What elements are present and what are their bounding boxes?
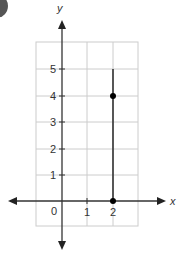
axis-ticks — [59, 69, 87, 204]
y-axis-down-arrow-icon — [58, 241, 66, 250]
y-tick-label-1: 1 — [50, 169, 56, 181]
point-2-4 — [110, 93, 116, 99]
y-axis-up-arrow-icon — [58, 20, 66, 29]
x-axis-left-arrow-icon — [8, 197, 17, 205]
y-axis-label: y — [56, 2, 64, 14]
y-tick-label-3: 3 — [50, 116, 56, 128]
question-badge-icon — [0, 0, 8, 18]
x-axis-label: x — [169, 195, 176, 207]
y-tick-label-5: 5 — [50, 63, 56, 75]
point-2-0 — [110, 198, 116, 204]
x-tick-label-2: 2 — [110, 206, 116, 218]
y-tick-label-4: 4 — [50, 90, 56, 102]
x-axis-right-arrow-icon — [157, 197, 166, 205]
x-tick-label-1: 1 — [84, 206, 90, 218]
y-tick-label-2: 2 — [50, 143, 56, 155]
coordinate-plane-chart: y x 5 4 3 2 1 0 1 2 — [0, 0, 182, 258]
origin-label: 0 — [51, 205, 57, 217]
